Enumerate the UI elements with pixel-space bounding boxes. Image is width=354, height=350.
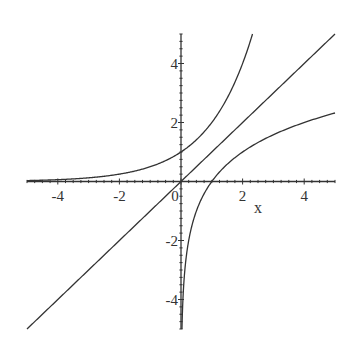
curve-exp2 [27, 34, 253, 181]
y-tick-label: -2 [166, 233, 179, 249]
x-tick-label: 2 [239, 188, 247, 204]
x-tick-label: 0 [171, 188, 179, 204]
x-tick-label: -4 [52, 188, 65, 204]
y-tick-label: 2 [171, 115, 179, 131]
x-tick-label: 4 [300, 188, 308, 204]
curve-log2 [182, 113, 335, 329]
chart: -4-2024-4-224x [0, 0, 354, 350]
y-tick-label: 4 [171, 56, 179, 72]
y-tick-label: -4 [166, 292, 179, 308]
x-tick-label: -2 [113, 188, 126, 204]
x-axis-label: x [254, 199, 262, 216]
